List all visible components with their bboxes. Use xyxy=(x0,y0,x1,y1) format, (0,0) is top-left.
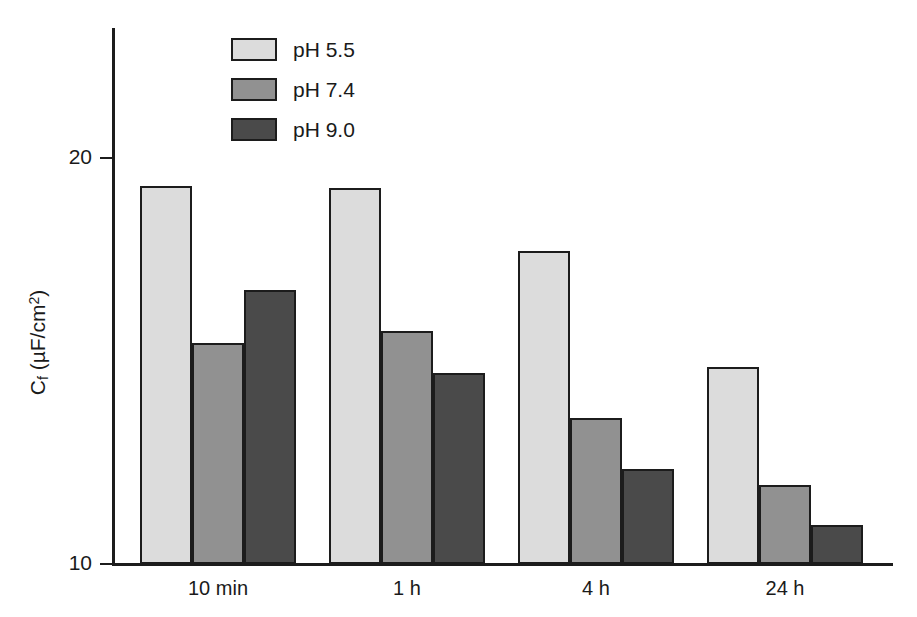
y-axis-title-unit: (µF/cm xyxy=(26,305,49,377)
y-axis-title-base: C xyxy=(26,380,49,395)
bar xyxy=(433,373,485,564)
bar xyxy=(381,331,433,564)
dark-gray-swatch xyxy=(231,118,277,141)
y-tick-mark-10 xyxy=(100,563,113,565)
legend-item-label: pH 7.4 xyxy=(293,78,355,102)
bar xyxy=(140,186,192,564)
x-axis-category-label: 10 min xyxy=(110,577,326,600)
y-axis-title: Cf (µF/cm2) xyxy=(26,243,51,443)
medium-gray-swatch xyxy=(231,78,277,101)
bar xyxy=(622,469,674,564)
legend-item: pH 5.5 xyxy=(231,32,355,67)
bar xyxy=(570,418,622,564)
x-axis-category-label: 1 h xyxy=(299,577,515,600)
bar xyxy=(329,188,381,564)
y-tick-mark-20 xyxy=(100,157,113,159)
y-tick-label-20: 20 xyxy=(30,145,92,169)
light-gray-swatch xyxy=(231,38,277,61)
x-axis-category-label: 4 h xyxy=(488,577,704,600)
bar xyxy=(192,343,244,564)
y-axis-title-superscript: 2 xyxy=(26,297,42,305)
legend-item: pH 7.4 xyxy=(231,72,355,107)
y-axis-title-unit-close: ) xyxy=(26,290,49,297)
y-axis-title-subscript: f xyxy=(35,376,51,380)
y-tick-label-10: 10 xyxy=(30,551,92,575)
bar xyxy=(759,485,811,564)
x-axis-category-label: 24 h xyxy=(677,577,893,600)
legend-item: pH 9.0 xyxy=(231,112,355,147)
bar xyxy=(244,290,296,564)
chart-legend: pH 5.5pH 7.4pH 9.0 xyxy=(231,32,355,152)
bar xyxy=(811,525,863,564)
bar-chart-figure: 20 10 Cf (µF/cm2) 10 min1 h4 h24 h pH 5.… xyxy=(0,0,917,617)
bar xyxy=(518,251,570,564)
bar xyxy=(707,367,759,564)
legend-item-label: pH 5.5 xyxy=(293,38,355,62)
cropped-header-artifact xyxy=(0,0,917,5)
legend-item-label: pH 9.0 xyxy=(293,118,355,142)
